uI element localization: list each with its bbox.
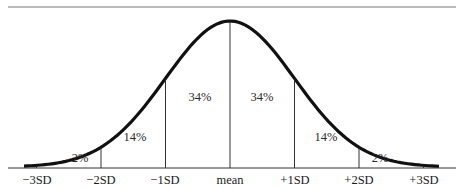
region-label: 34%	[251, 90, 274, 104]
bell-curve	[24, 21, 439, 166]
region-label: 2%	[72, 151, 89, 165]
sd-dividers	[37, 22, 424, 168]
x-tick-label: +1SD	[280, 173, 309, 187]
region-label: 2%	[372, 151, 389, 165]
x-tick-label: −3SD	[22, 173, 51, 187]
x-tick-label: +2SD	[344, 173, 373, 187]
region-label: 34%	[189, 90, 212, 104]
region-label: 14%	[124, 130, 147, 144]
normal-distribution-chart: 2% 14% 34% 34% 14% 2% −3SD −2SD −1SD mea…	[0, 0, 461, 189]
x-tick-label: −2SD	[86, 173, 115, 187]
region-label: 14%	[315, 130, 338, 144]
x-tick-label: −1SD	[150, 173, 179, 187]
x-tick-label: +3SD	[409, 173, 438, 187]
x-tick-labels: −3SD −2SD −1SD mean +1SD +2SD +3SD	[22, 173, 438, 187]
x-tick-label: mean	[216, 173, 244, 187]
